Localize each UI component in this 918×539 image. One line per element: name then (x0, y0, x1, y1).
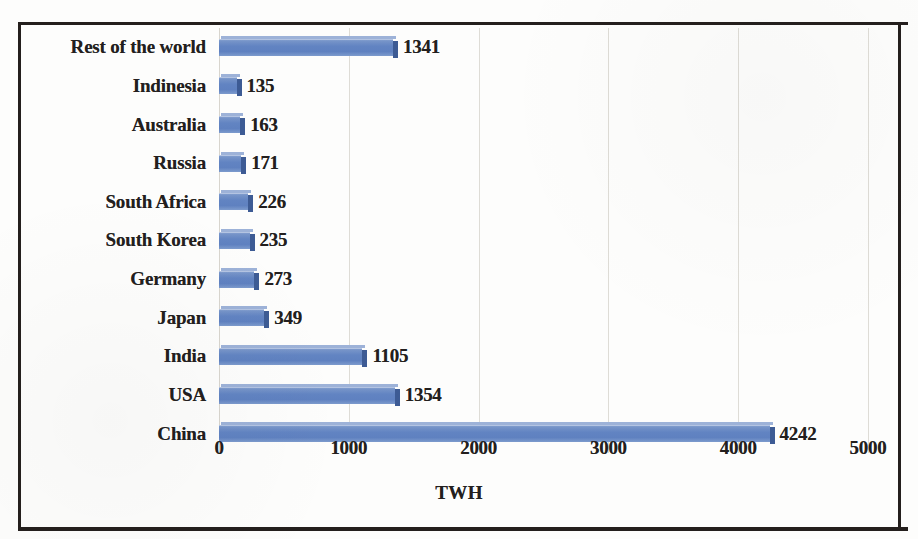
bar-group[interactable]: 1341 (219, 28, 440, 67)
bar[interactable] (219, 348, 362, 365)
bar-row: Indinesia135 (219, 67, 868, 106)
gridline-5000 (868, 28, 869, 453)
bar-row: USA1354 (219, 376, 868, 415)
x-tick-2000: 2000 (460, 437, 497, 459)
bar-row: Australia163 (219, 105, 868, 144)
bar-group[interactable]: 135 (219, 67, 274, 106)
x-tick-3000: 3000 (590, 437, 627, 459)
x-axis-title: TWH (0, 482, 918, 504)
bar-group[interactable]: 171 (219, 144, 279, 183)
bar-group[interactable]: 349 (219, 298, 302, 337)
page-frame-left (18, 22, 21, 531)
bar-row: South Korea235 (219, 221, 868, 260)
bar[interactable] (219, 232, 250, 249)
category-label: South Africa (105, 191, 206, 213)
bar-value-label: 226 (258, 191, 286, 213)
bar-group[interactable]: 1105 (219, 337, 408, 376)
bar-group[interactable]: 273 (219, 260, 292, 299)
bar-chart-figure: Rest of the world1341Indinesia135Austral… (0, 0, 918, 539)
bar-value-label: 171 (251, 152, 279, 174)
bar-value-label: 1354 (405, 384, 442, 406)
category-label: China (157, 423, 206, 445)
bar[interactable] (219, 39, 393, 56)
category-label: Indinesia (133, 75, 206, 97)
bar-value-label: 235 (260, 229, 288, 251)
bar-row: Russia171 (219, 144, 868, 183)
bar[interactable] (219, 309, 264, 326)
bar[interactable] (219, 116, 240, 133)
x-tick-5000: 5000 (850, 437, 887, 459)
x-tick-1000: 1000 (330, 437, 367, 459)
bar-value-label: 273 (264, 268, 292, 290)
category-label: South Korea (106, 229, 206, 251)
bar-row: Germany273 (219, 260, 868, 299)
bar[interactable] (219, 193, 248, 210)
page-frame-right (898, 22, 901, 531)
bar[interactable] (219, 155, 241, 172)
bar-row: India1105 (219, 337, 868, 376)
page-frame-top (18, 22, 908, 25)
x-tick-0: 0 (214, 437, 223, 459)
category-label: Australia (132, 114, 206, 136)
bar[interactable] (219, 271, 254, 288)
bar-value-label: 4242 (780, 423, 817, 445)
plot-area: Rest of the world1341Indinesia135Austral… (219, 28, 868, 453)
bar-group[interactable]: 163 (219, 105, 278, 144)
page-frame-bottom (18, 527, 908, 531)
category-label: Rest of the world (71, 36, 206, 58)
bar-value-label: 135 (247, 75, 275, 97)
bar-value-label: 349 (274, 307, 302, 329)
bar-row: Rest of the world1341 (219, 28, 868, 67)
category-label: Germany (130, 268, 206, 290)
bar-value-label: 1105 (372, 345, 408, 367)
bar-group[interactable]: 235 (219, 221, 287, 260)
category-label: Japan (157, 307, 206, 329)
bar-group[interactable]: 1354 (219, 376, 442, 415)
bar-value-label: 1341 (403, 36, 440, 58)
bar-group[interactable]: 226 (219, 183, 286, 222)
bar[interactable] (219, 387, 395, 404)
bar[interactable] (219, 77, 237, 94)
bar-row: South Africa226 (219, 183, 868, 222)
bar-row: China4242 (219, 414, 868, 453)
bar-value-label: 163 (250, 114, 278, 136)
category-label: India (164, 345, 206, 367)
bar-row: Japan349 (219, 298, 868, 337)
category-label: USA (169, 384, 206, 406)
category-label: Russia (153, 152, 206, 174)
x-tick-4000: 4000 (720, 437, 757, 459)
